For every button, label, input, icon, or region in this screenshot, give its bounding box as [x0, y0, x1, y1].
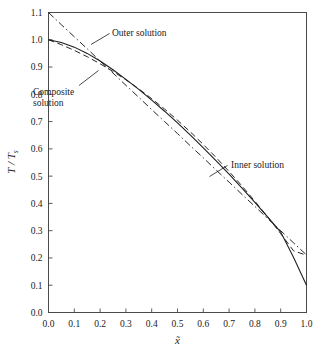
x-tick-label: 0.4	[146, 319, 158, 329]
y-tick-label: 1.0	[31, 35, 43, 45]
x-tick-label: 0.5	[172, 319, 184, 329]
chart-figure: 0.00.10.20.30.40.50.60.70.80.91.0 0.00.1…	[0, 0, 327, 357]
x-tick-label: 1.0	[301, 319, 313, 329]
y-tick-label: 0.1	[31, 281, 43, 291]
y-tick-label: 0.0	[31, 308, 43, 318]
annotation-label-outer: Outer solution	[112, 28, 167, 38]
x-tick-label: 0.9	[275, 319, 287, 329]
annotation-label-composite-line2: solution	[33, 98, 64, 108]
x-tick-label: 0.0	[43, 319, 55, 329]
y-tick-label: 1.1	[31, 8, 43, 18]
y-tick-label: 0.3	[31, 226, 43, 236]
y-axis-title-sub: s	[11, 150, 20, 153]
y-tick-label: 0.6	[31, 144, 43, 154]
chart-svg: 0.00.10.20.30.40.50.60.70.80.91.0 0.00.1…	[0, 0, 327, 357]
y-tick-label: 0.4	[31, 199, 43, 209]
x-tick-label: 0.3	[120, 319, 132, 329]
x-tick-label: 0.1	[68, 319, 80, 329]
y-tick-label: 0.9	[31, 62, 43, 72]
x-axis-title-text: x̃	[174, 334, 181, 346]
x-axis-title: x̃	[174, 334, 181, 346]
annotation-label-inner: Inner solution	[231, 160, 284, 170]
chart-background	[0, 0, 327, 357]
x-tick-label: 0.6	[197, 319, 209, 329]
x-tick-label: 0.2	[94, 319, 106, 329]
y-tick-label: 0.2	[31, 253, 43, 263]
annotation-label-composite-line1: Composite	[33, 87, 74, 97]
y-axis-title-main: T / T	[5, 152, 17, 173]
y-tick-label: 0.7	[31, 117, 43, 127]
x-tick-label: 0.8	[249, 319, 261, 329]
y-tick-label: 0.5	[31, 172, 43, 182]
x-tick-label: 0.7	[223, 319, 235, 329]
